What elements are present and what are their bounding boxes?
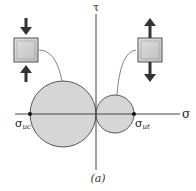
tension-connector bbox=[117, 50, 136, 95]
sigma-uc-point bbox=[28, 112, 32, 116]
arrow-up-icon bbox=[144, 18, 156, 38]
compression-element bbox=[14, 18, 38, 82]
sigma-uc-label: σuc bbox=[15, 117, 31, 131]
arrow-up-icon bbox=[20, 65, 32, 82]
tension-element bbox=[138, 18, 162, 82]
tau-axis-label: τ bbox=[93, 1, 99, 14]
arrow-down-icon bbox=[20, 18, 32, 35]
arrow-down-icon bbox=[144, 62, 156, 82]
compression-connector bbox=[39, 50, 62, 81]
sigma-axis-label: σ bbox=[182, 107, 190, 121]
sigma-ut-label: σut bbox=[135, 117, 150, 131]
mohr-circle-diagram: τ σ σuc σut bbox=[0, 0, 196, 191]
figure-caption: (a) bbox=[0, 172, 196, 185]
sigma-ut-point bbox=[132, 112, 136, 116]
